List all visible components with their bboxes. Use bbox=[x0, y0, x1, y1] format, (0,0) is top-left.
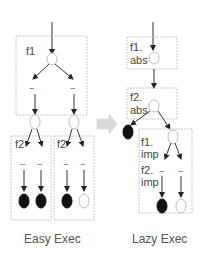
easy-exec-caption: Easy Exec bbox=[24, 232, 81, 246]
lazy-exec-caption: Lazy Exec bbox=[132, 232, 187, 246]
result-node-filled bbox=[19, 194, 29, 208]
ellipsis: ... bbox=[70, 81, 75, 91]
f2-imp-label-line1: f2. bbox=[141, 164, 153, 176]
result-node-open bbox=[79, 194, 89, 208]
f1-imp-node bbox=[168, 130, 178, 144]
edge bbox=[158, 111, 170, 129]
edge bbox=[33, 64, 49, 79]
f2-imp-label-line2: imp bbox=[141, 176, 159, 188]
edge bbox=[55, 64, 73, 79]
f1-node bbox=[47, 53, 57, 65]
f2-entry-node bbox=[69, 115, 79, 129]
right-arrow-icon bbox=[97, 114, 117, 134]
result-node-filled bbox=[62, 194, 72, 208]
edge bbox=[26, 129, 32, 146]
lazy-exec-panel: f1. abs f2. abs f1. imp f2. imp ... ... … bbox=[123, 22, 192, 246]
f1-abs-label-line2: abs bbox=[130, 54, 148, 66]
ellipsis: ... bbox=[80, 157, 85, 167]
ellipsis: ... bbox=[178, 164, 183, 174]
f1-imp-label-line1: f1. bbox=[141, 136, 153, 148]
ellipsis: ... bbox=[29, 81, 34, 91]
f2-entry-node bbox=[30, 115, 40, 129]
easy-exec-panel: f1 ... ... f2 ... ... f2 ... ... Easy Ex… bbox=[11, 22, 94, 246]
edge bbox=[165, 143, 171, 159]
ellipsis: ... bbox=[63, 157, 68, 167]
f2-label: f2 bbox=[15, 138, 24, 150]
ellipsis: ... bbox=[37, 157, 42, 167]
result-node-filled bbox=[36, 194, 46, 208]
edge bbox=[67, 129, 72, 146]
f1-label: f1 bbox=[26, 45, 35, 57]
edge bbox=[37, 129, 42, 146]
edge bbox=[77, 129, 83, 146]
ellipsis: ... bbox=[20, 157, 25, 167]
edge bbox=[175, 143, 181, 159]
result-node-filled bbox=[123, 125, 133, 139]
f1-abs-node bbox=[149, 52, 159, 64]
result-node-open bbox=[176, 199, 186, 213]
f2-abs-node bbox=[149, 100, 159, 112]
result-node-filled bbox=[157, 199, 167, 213]
ellipsis: ... bbox=[159, 164, 164, 174]
f2-abs-label-line1: f2. bbox=[130, 91, 142, 103]
execution-diagram: f1 ... ... f2 ... ... f2 ... ... Easy Ex… bbox=[0, 0, 201, 264]
f2-label: f2 bbox=[57, 138, 66, 150]
f1-imp-label-line2: imp bbox=[141, 148, 159, 160]
f1-abs-label-line1: f1. bbox=[130, 41, 142, 53]
